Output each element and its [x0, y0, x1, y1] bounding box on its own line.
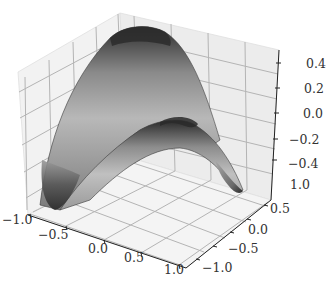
y-tick-label: −1.0: [202, 260, 232, 275]
x-tick-label: 0.5: [124, 250, 144, 265]
y-tick-label: 0.0: [248, 222, 268, 237]
surface-plot-3d: −1.0 −0.5 0.0 0.5 1.0 −1.0 −0.5 0.0 0.5 …: [0, 0, 328, 281]
x-tick-label: −1.0: [2, 212, 32, 227]
z-tick-label: −0.2: [289, 132, 319, 147]
z-tick-labels: −0.4 −0.2 0.0 0.2 0.4: [288, 56, 326, 171]
z-tick-label: −0.4: [288, 156, 318, 171]
z-tick-label: 0.0: [303, 106, 323, 121]
y-tick-label: −0.5: [228, 241, 258, 256]
y-tick-label: 0.5: [270, 201, 290, 216]
z-tick-label: 0.4: [306, 56, 326, 71]
z-tick-label: 0.2: [304, 81, 324, 96]
y-tick-label: 1.0: [290, 177, 310, 192]
x-tick-label: 1.0: [164, 262, 184, 277]
x-tick-label: 0.0: [88, 241, 108, 256]
x-tick-label: −0.5: [38, 227, 68, 242]
